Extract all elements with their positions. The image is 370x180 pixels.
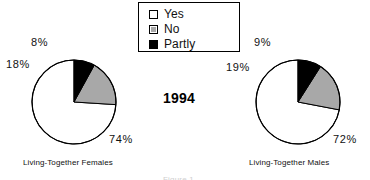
year-label: 1994 xyxy=(163,90,195,106)
right-pie-label-yes: 72% xyxy=(333,133,357,145)
figure-note: Figure 1 xyxy=(163,175,194,180)
pie-chart-figure: Yes No Partly 8% 18% 74% 9% 19% 72% 1994… xyxy=(0,0,370,180)
left-pie-label-no: 18% xyxy=(6,58,30,70)
pie-right xyxy=(256,60,340,144)
left-pie-label-partly: 8% xyxy=(31,36,48,48)
pie-left xyxy=(32,60,116,144)
caption-right: Living-Together Males xyxy=(249,158,329,168)
left-pie-label-yes: 74% xyxy=(109,133,133,145)
right-pie-label-partly: 9% xyxy=(254,36,271,48)
right-pie-label-no: 19% xyxy=(226,61,250,73)
caption-left: Living-Together Females xyxy=(23,158,113,168)
